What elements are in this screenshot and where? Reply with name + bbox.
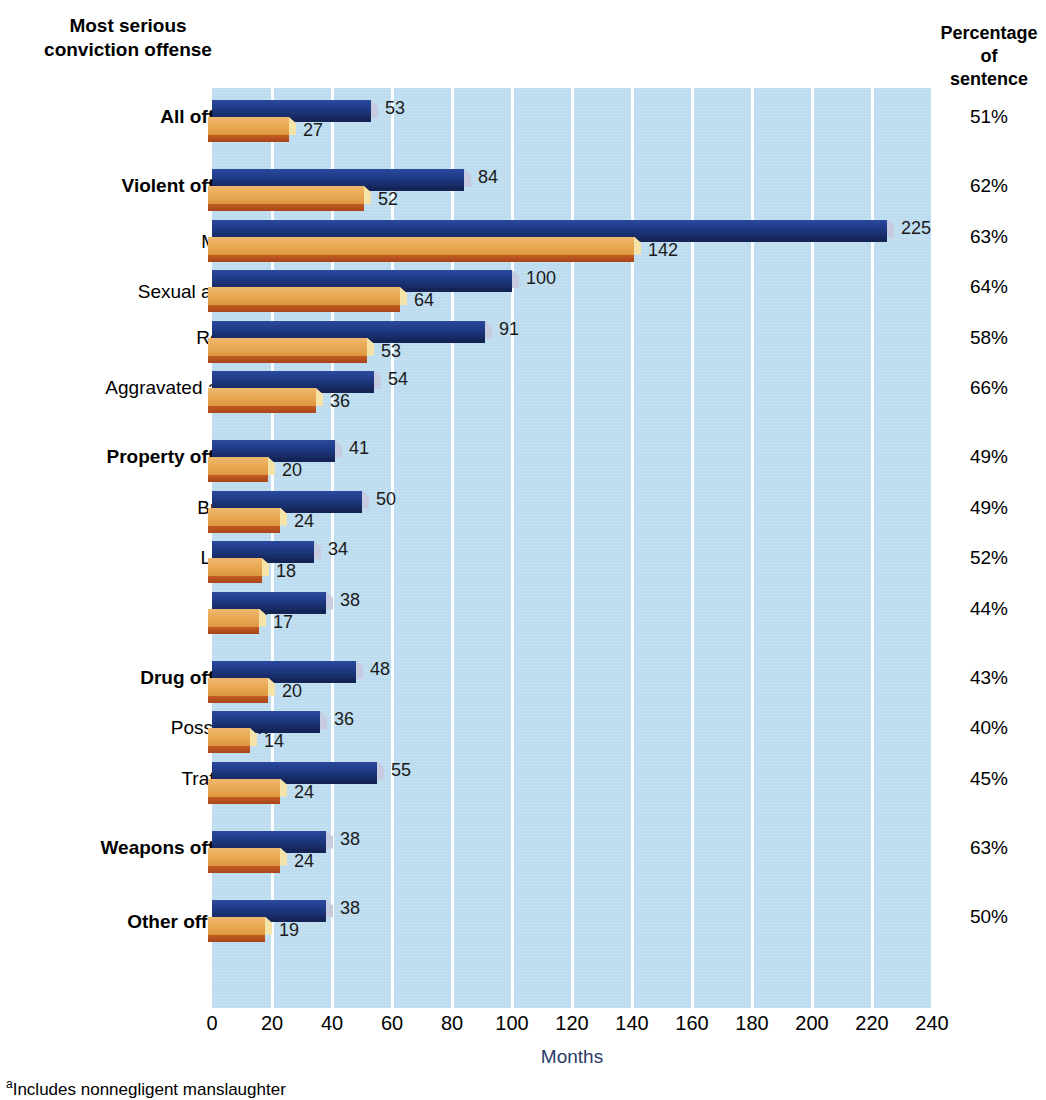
bar-time-served (208, 779, 280, 797)
bar-end-cap (887, 220, 894, 238)
bar-shadow-edge (208, 406, 316, 413)
x-axis-tick: 180 (722, 1012, 782, 1035)
bar-face (212, 440, 335, 458)
bar-shadow-edge (208, 135, 289, 142)
bar-face (208, 848, 280, 866)
bar-face (212, 371, 374, 389)
bar-shadow-edge (208, 576, 262, 583)
bar-face (212, 831, 326, 849)
bar-sentence-length (212, 440, 335, 458)
chart-row: Weapons offenses382463% (0, 831, 1046, 879)
percentage-of-sentence-value: 49% (932, 497, 1046, 519)
bar-value-time-served: 17 (273, 612, 293, 633)
bar-value-time-served: 64 (414, 290, 434, 311)
bar-value-time-served: 18 (276, 561, 296, 582)
bar-end-cap (377, 762, 384, 780)
bar-end-cap (362, 491, 369, 509)
bar-face (212, 711, 320, 729)
bar-end-cap (326, 831, 333, 849)
bar-time-served (208, 508, 280, 526)
percentage-of-sentence-value: 49% (932, 446, 1046, 468)
percentage-of-sentence-value: 51% (932, 106, 1046, 128)
column-header-percentage: Percentage of sentence (932, 22, 1046, 91)
chart-row: Robbery915358% (0, 321, 1046, 369)
bar-end-cap (485, 321, 492, 339)
bar-face (208, 457, 268, 475)
bar-value-time-served: 24 (294, 511, 314, 532)
x-axis-title: Months (212, 1046, 932, 1068)
percentage-of-sentence-value: 62% (932, 175, 1046, 197)
bar-sentence-length (212, 762, 377, 780)
bar-value-sentence-length: 38 (340, 898, 360, 919)
x-axis: 020406080100120140160180200220240 (212, 1012, 932, 1042)
column-header-category-line1: Most serious (28, 14, 228, 38)
bar-time-served (208, 848, 280, 866)
bar-shadow-edge (208, 627, 259, 634)
percentage-of-sentence-value: 58% (932, 327, 1046, 349)
bar-value-time-served: 24 (294, 851, 314, 872)
bar-shadow-edge (208, 526, 280, 533)
column-header-percentage-line3: sentence (932, 68, 1046, 91)
bar-value-sentence-length: 34 (328, 539, 348, 560)
footnote-a: aIncludes nonnegligent manslaughter (6, 1074, 286, 1100)
bar-shadow-edge (208, 356, 367, 363)
bar-time-served (208, 388, 316, 406)
bar-end-cap (314, 541, 321, 559)
bar-time-served (208, 728, 250, 746)
footnote-marker: a (6, 1077, 13, 1091)
chart-row: Violent offenses845262% (0, 169, 1046, 217)
bar-time-served (208, 917, 265, 935)
bar-value-time-served: 142 (648, 240, 678, 261)
bar-time-served (208, 609, 259, 627)
bar-sentence-length (212, 220, 887, 238)
bar-end-cap (326, 900, 333, 918)
bar-value-sentence-length: 225 (901, 218, 931, 239)
bar-time-served (208, 117, 289, 135)
bar-end-cap (371, 100, 378, 118)
percentage-of-sentence-value: 40% (932, 717, 1046, 739)
bar-shadow-edge (208, 305, 400, 312)
x-axis-tick: 0 (182, 1012, 242, 1035)
bar-end-cap (356, 661, 363, 679)
x-axis-tick: 40 (302, 1012, 362, 1035)
bar-face (212, 100, 371, 118)
x-axis-tick: 100 (482, 1012, 542, 1035)
chart-row: Larceny341852% (0, 541, 1046, 589)
bar-time-served (208, 457, 268, 475)
bar-face (208, 558, 262, 576)
bar-time-served (208, 287, 400, 305)
bar-face (212, 169, 464, 187)
bar-end-cap (335, 440, 342, 458)
chart-row: Sexual assaultb1006464% (0, 270, 1046, 318)
percentage-of-sentence-value: 64% (932, 276, 1046, 298)
bar-sentence-length (212, 100, 371, 118)
bar-value-time-served: 53 (381, 341, 401, 362)
bar-end-cap (374, 371, 381, 389)
bar-value-time-served: 20 (282, 681, 302, 702)
bar-value-sentence-length: 41 (349, 438, 369, 459)
chart-row: Fraud381744% (0, 592, 1046, 640)
footnote-text: Includes nonnegligent manslaughter (13, 1080, 286, 1099)
bar-value-sentence-length: 53 (385, 98, 405, 119)
bar-face (212, 541, 314, 559)
bar-sentence-length (212, 371, 374, 389)
bar-end-cap (326, 592, 333, 610)
bar-face (212, 661, 356, 679)
x-axis-tick: 20 (242, 1012, 302, 1035)
bar-value-sentence-length: 36 (334, 709, 354, 730)
bar-sentence-length (212, 661, 356, 679)
bar-face (208, 388, 316, 406)
bar-value-sentence-length: 38 (340, 829, 360, 850)
bar-shadow-edge (208, 255, 634, 262)
bar-face (212, 762, 377, 780)
bar-face (212, 592, 326, 610)
bar-value-sentence-length: 100 (526, 268, 556, 289)
percentage-of-sentence-value: 44% (932, 598, 1046, 620)
bar-face (208, 338, 367, 356)
x-axis-tick: 220 (842, 1012, 902, 1035)
chart-row: Aggravated assault543666% (0, 371, 1046, 419)
percentage-of-sentence-value: 63% (932, 837, 1046, 859)
percentage-of-sentence-value: 50% (932, 906, 1046, 928)
chart-row: All offenses532751% (0, 100, 1046, 148)
bar-value-sentence-length: 55 (391, 760, 411, 781)
